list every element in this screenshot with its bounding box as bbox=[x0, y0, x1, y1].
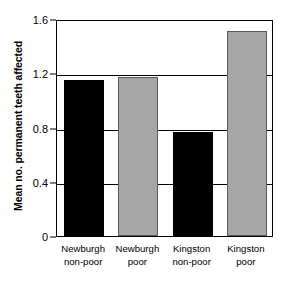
x-axis-label-line1: Newburgh bbox=[106, 243, 168, 256]
x-axis-label-line1: Kingston bbox=[215, 243, 277, 256]
y-tick-label: 1.2 bbox=[18, 68, 48, 80]
bar bbox=[64, 80, 104, 236]
x-axis-label: Newburghnon-poor bbox=[52, 243, 114, 268]
plot-area bbox=[56, 20, 273, 237]
x-axis-label: Kingstonnon-poor bbox=[161, 243, 223, 268]
bar-chart: Mean no. permanent teeth affected 00.40.… bbox=[0, 0, 289, 285]
x-axis-label-line2: non-poor bbox=[52, 256, 114, 269]
bar bbox=[173, 132, 213, 236]
x-axis-label: Newburghpoor bbox=[106, 243, 168, 268]
x-axis-label: Kingstonpoor bbox=[215, 243, 277, 268]
y-tick-label: 0.4 bbox=[18, 177, 48, 189]
bar bbox=[227, 31, 267, 236]
x-axis-category-labels: Newburghnon-poorNewburghpoorKingstonnon-… bbox=[56, 243, 273, 283]
bar bbox=[118, 77, 158, 236]
x-axis-label-line2: non-poor bbox=[161, 256, 223, 269]
x-axis-label-line2: poor bbox=[106, 256, 168, 269]
x-axis-label-line2: poor bbox=[215, 256, 277, 269]
y-tick-label: 1.6 bbox=[18, 14, 48, 26]
x-axis-label-line1: Newburgh bbox=[52, 243, 114, 256]
x-axis-label-line1: Kingston bbox=[161, 243, 223, 256]
y-tick-label: 0 bbox=[18, 231, 48, 243]
y-tick-label: 0.8 bbox=[18, 123, 48, 135]
y-axis-tick-labels: 00.40.81.21.6 bbox=[14, 20, 48, 237]
